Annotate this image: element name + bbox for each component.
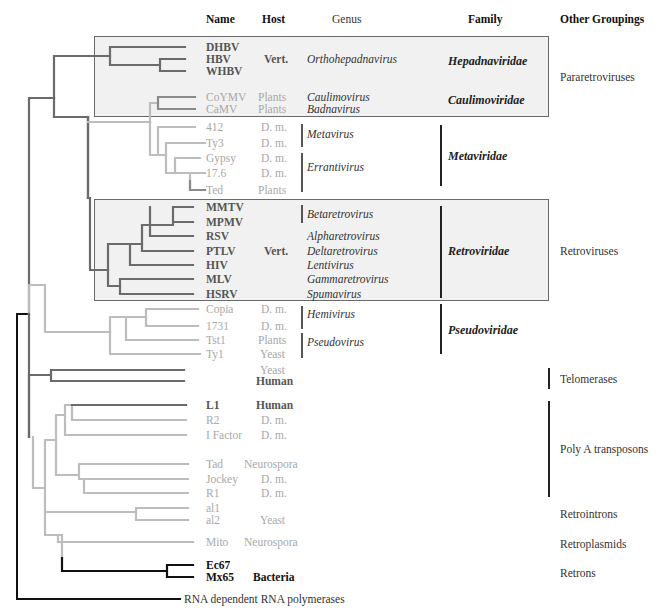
leaf-name: HIV xyxy=(206,259,228,272)
other-grouping-label: Telomerases xyxy=(560,373,617,386)
leaf-name: WHBV xyxy=(206,65,242,78)
leaf-host: Vert. xyxy=(264,245,288,258)
root-branch xyxy=(17,314,180,599)
leaf-name: MLV xyxy=(206,273,232,286)
leaf-name: Ty1 xyxy=(206,348,224,361)
leaf-name: Gypsy xyxy=(206,152,236,165)
leaf-host: Yeast xyxy=(260,348,285,361)
leaf-host: D. m. xyxy=(261,473,287,486)
leaf-host: D. m. xyxy=(261,137,287,150)
leaf-host: Bacteria xyxy=(253,571,295,584)
leaf-name: I Factor xyxy=(206,429,242,442)
genus-label: Orthohepadnavirus xyxy=(307,53,397,66)
leaf-name: L1 xyxy=(206,399,219,412)
genus-label: Hemivirus xyxy=(307,308,355,321)
family-label: Pseudoviridae xyxy=(448,324,518,337)
genus-bracket-metavirus xyxy=(301,124,303,147)
leaf-host: Plants xyxy=(258,184,286,197)
genus-bracket-pseudovirus xyxy=(301,333,303,358)
leaf-name: RSV xyxy=(206,230,229,243)
leaf-name: Mx65 xyxy=(206,571,234,584)
family-label: Hepadnaviridae xyxy=(448,55,527,68)
leaf-name: R1 xyxy=(206,487,219,500)
leaf-name: 1731 xyxy=(206,320,229,333)
leaf-host: D. m. xyxy=(261,167,287,180)
leaf-host: Neurospora xyxy=(244,458,298,471)
leaf-host: D. m. xyxy=(261,487,287,500)
leaf-name: MMTV xyxy=(206,201,244,214)
header-name: Name xyxy=(206,13,235,26)
other-grouping-label: Retroplasmids xyxy=(560,538,626,551)
genus-label: Deltaretrovirus xyxy=(307,245,378,258)
leaf-name: CaMV xyxy=(206,103,237,116)
family-label: Metaviridae xyxy=(448,150,507,163)
family-label: Retroviridae xyxy=(448,245,509,258)
leaf-host: D. m. xyxy=(261,152,287,165)
leaf-name: Ted xyxy=(206,184,223,197)
genus-bracket-errantivirus xyxy=(301,153,303,192)
family-label: Caulimoviridae xyxy=(448,94,525,107)
leaf-name: MPMV xyxy=(206,216,243,229)
other-grouping-label: Retrointrons xyxy=(560,508,618,521)
leaf-name: 17.6 xyxy=(206,167,226,180)
leaf-host: Plants xyxy=(258,103,286,116)
group-bracket-polya xyxy=(548,401,550,497)
leaf-host: D. m. xyxy=(261,320,287,333)
family-bracket-metaviridae xyxy=(440,125,442,186)
leaf-host: D. m. xyxy=(261,303,287,316)
leaf-name: 412 xyxy=(206,121,223,134)
leaf-name: Tst1 xyxy=(206,334,226,347)
genus-bracket-betaretrovirus xyxy=(301,205,303,223)
other-grouping-label: Retroviruses xyxy=(560,245,618,258)
family-bracket-retroviridae xyxy=(440,206,442,298)
leaf-host: D. m. xyxy=(261,429,287,442)
leaf-name: Jockey xyxy=(206,473,238,486)
leaf-name: Ty3 xyxy=(206,137,224,150)
genus-label: Spumavirus xyxy=(307,288,361,301)
leaf-name: Tad xyxy=(206,458,223,471)
leaf-name: R2 xyxy=(206,414,219,427)
leaf-name: HSRV xyxy=(206,288,238,301)
leaf-name: Copia xyxy=(206,303,233,316)
phylogenetic-tree-figure: Name Host Genus Family Other Groupings D… xyxy=(0,0,658,615)
leaf-name: al2 xyxy=(206,514,220,527)
genus-label: Alpharetrovirus xyxy=(307,230,380,243)
leaf-host: Yeast xyxy=(260,514,285,527)
header-host: Host xyxy=(262,13,285,26)
genus-label: Betaretrovirus xyxy=(307,208,373,221)
other-grouping-label: Poly A transposons xyxy=(560,443,648,456)
leaf-host: D. m. xyxy=(261,121,287,134)
other-grouping-label: Retrons xyxy=(560,567,596,580)
header-family: Family xyxy=(468,13,503,26)
genus-bracket-hemivirus xyxy=(301,306,303,329)
genus-label: Gammaretrovirus xyxy=(307,273,389,286)
outgroup-label: RNA dependent RNA polymerases xyxy=(184,593,345,606)
leaf-host: Vert. xyxy=(264,53,288,66)
genus-label: Badnavirus xyxy=(307,103,360,116)
leaf-host: Human xyxy=(256,375,293,388)
leaf-name: PTLV xyxy=(206,245,236,258)
genus-label: Pseudovirus xyxy=(307,336,364,349)
genus-label: Lentivirus xyxy=(307,259,354,272)
header-genus: Genus xyxy=(332,13,361,26)
other-grouping-label: Pararetroviruses xyxy=(560,71,635,84)
leaf-host: Plants xyxy=(258,334,286,347)
leaf-name: Mito xyxy=(206,536,228,549)
leaf-host: Neurospora xyxy=(244,536,298,549)
group-bracket-telomerases xyxy=(548,368,550,389)
family-bracket-pseudoviridae xyxy=(440,304,442,354)
leaf-host: D. m. xyxy=(261,414,287,427)
genus-label: Metavirus xyxy=(307,128,354,141)
header-other-groupings: Other Groupings xyxy=(560,13,644,26)
genus-label: Errantivirus xyxy=(307,161,364,174)
leaf-host: Human xyxy=(256,399,293,412)
